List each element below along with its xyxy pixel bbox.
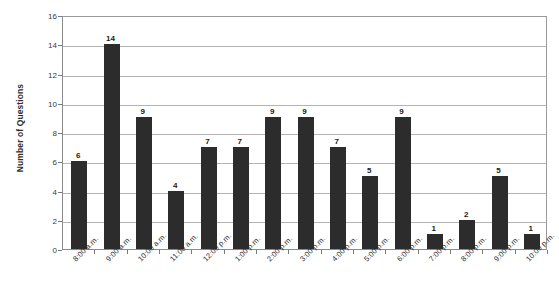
- bar: [362, 176, 378, 249]
- bar: [136, 117, 152, 249]
- y-axis-tick-label: 8: [9, 129, 57, 138]
- bar: [201, 147, 217, 249]
- bar-value-label: 9: [257, 107, 287, 116]
- gridline: [63, 46, 546, 47]
- bar-value-label: 9: [387, 107, 417, 116]
- y-axis-tick-label: 4: [9, 187, 57, 196]
- bar-value-label: 14: [96, 34, 126, 43]
- x-axis-tick-mark: [482, 250, 483, 254]
- y-axis-tick-label: 16: [9, 12, 57, 21]
- x-axis-tick-mark: [547, 250, 548, 254]
- bar-value-label: 1: [516, 224, 546, 233]
- bar: [104, 44, 120, 249]
- x-axis-tick-mark: [515, 250, 516, 254]
- x-axis-tick-mark: [94, 250, 95, 254]
- bar: [265, 117, 281, 249]
- bar-value-label: 9: [290, 107, 320, 116]
- bar-value-label: 6: [63, 151, 93, 160]
- y-axis-tick-mark: [58, 250, 62, 251]
- x-axis-tick-mark: [450, 250, 451, 254]
- gridline: [63, 76, 546, 77]
- bar: [395, 117, 411, 249]
- bar-value-label: 7: [225, 137, 255, 146]
- x-axis-tick-mark: [288, 250, 289, 254]
- x-axis-tick-mark: [321, 250, 322, 254]
- bar-value-label: 5: [484, 166, 514, 175]
- bar-chart: Number of Questions 0246810121416 614947…: [0, 0, 559, 295]
- bar-value-label: 4: [160, 181, 190, 190]
- bar: [71, 161, 87, 249]
- y-axis-tick-label: 14: [9, 41, 57, 50]
- bar-value-label: 7: [322, 137, 352, 146]
- x-axis-tick-mark: [191, 250, 192, 254]
- bar: [168, 191, 184, 250]
- y-axis-tick-label: 2: [9, 216, 57, 225]
- bar-value-label: 5: [354, 166, 384, 175]
- bar: [298, 117, 314, 249]
- bar-value-label: 7: [193, 137, 223, 146]
- x-axis-tick-mark: [224, 250, 225, 254]
- bar: [492, 176, 508, 249]
- x-axis-tick-mark: [159, 250, 160, 254]
- y-axis-tick-label: 6: [9, 158, 57, 167]
- x-axis-tick-mark: [127, 250, 128, 254]
- bar-value-label: 9: [128, 107, 158, 116]
- x-axis-tick-mark: [353, 250, 354, 254]
- gridline: [63, 105, 546, 106]
- y-axis-tick-label: 12: [9, 70, 57, 79]
- x-axis-tick-mark: [256, 250, 257, 254]
- x-axis-tick-mark: [385, 250, 386, 254]
- bar-value-label: 1: [419, 224, 449, 233]
- y-axis-tick-label: 10: [9, 99, 57, 108]
- bar: [330, 147, 346, 249]
- x-axis-tick-mark: [418, 250, 419, 254]
- bar-value-label: 2: [451, 210, 481, 219]
- y-axis-tick-label: 0: [9, 246, 57, 255]
- bar: [233, 147, 249, 249]
